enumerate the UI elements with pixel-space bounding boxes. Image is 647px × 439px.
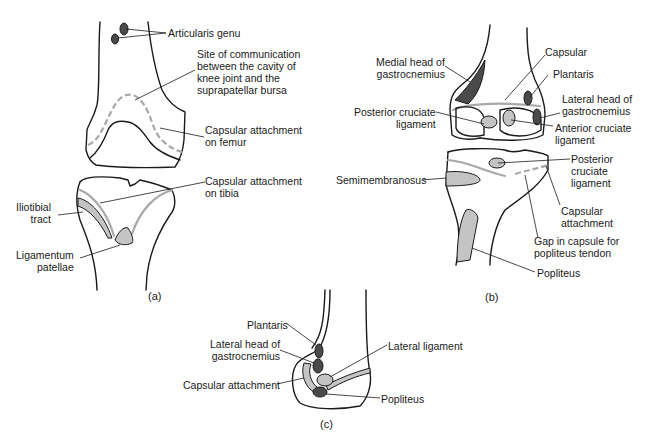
label-popliteus-b: Popliteus [537, 267, 580, 279]
panel-c-femur-lateral [277, 290, 387, 409]
diagram-drawing [0, 0, 647, 439]
articularis-genu-marker-2 [112, 34, 119, 44]
label-lateral-head-gastrocnemius-b: Lateral head of gastrocnemius [562, 93, 632, 117]
label-capsular-attachment-tibia: Capsular attachment on tibia [205, 175, 302, 199]
caption-a: (a) [148, 290, 161, 302]
panel-b-femur [436, 25, 560, 140]
label-capsular-attachment-c: Capsular attachment [183, 379, 280, 391]
panel-a-tibia [58, 177, 205, 290]
label-capsular-attachment-femur: Capsular attachment on femur [205, 124, 302, 148]
label-gap-in-capsule: Gap in capsule for popliteus tendon [534, 235, 619, 259]
label-plantaris-c: Plantaris [247, 319, 288, 331]
knee-attachments-figure: Articularis genu Site of communication b… [0, 0, 647, 439]
label-anterior-cruciate: Anterior cruciate ligament [555, 122, 631, 146]
label-lateral-ligament: Lateral ligament [388, 340, 463, 352]
label-posterior-cruciate-tibia: Posterior cruciate ligament [571, 153, 613, 189]
label-site-of-communication: Site of communication between the cavity… [197, 48, 300, 96]
label-popliteus-c: Popliteus [381, 393, 424, 405]
label-capsular-attachment-b: Capsular attachment [561, 205, 613, 229]
label-semimembranosus: Semimembranosus [336, 174, 426, 186]
caption-c: (c) [320, 418, 333, 430]
label-plantaris-b: Plantaris [553, 68, 594, 80]
label-posterior-cruciate-femur: Posterior cruciate ligament [354, 106, 436, 130]
caption-b: (b) [485, 291, 498, 303]
label-articularis-genu: Articularis genu [168, 27, 240, 39]
label-ligamentum-patellae: Ligamentum patellae [16, 249, 74, 273]
label-iliotibial-tract: Iliotibial tract [16, 201, 51, 225]
label-lateral-head-gastrocnemius-c: Lateral head of gastrocnemius [210, 338, 280, 362]
label-medial-head-gastrocnemius: Medial head of gastrocnemius [376, 56, 445, 80]
label-capsular: Capsular [545, 46, 587, 58]
panel-a-femur [86, 22, 204, 168]
